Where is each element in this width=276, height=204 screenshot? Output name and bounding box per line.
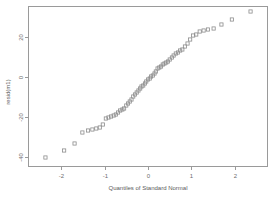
x-tick-label: 0 [147,173,151,179]
x-axis-ticks: -2-1012 [59,167,238,179]
y-axis-ticks: 200-20-40 [18,34,29,162]
x-tick-label: -2 [59,173,65,179]
data-point [230,18,233,21]
data-point [91,128,94,131]
x-tick-label: -1 [103,173,109,179]
data-point [95,127,98,130]
data-point [189,38,192,41]
x-axis-title: Quantiles of Standard Normal [108,185,187,191]
data-point [44,156,47,159]
y-axis-title: resid(m1) [5,79,11,104]
data-point [198,30,201,33]
y-tick-label: 20 [18,34,24,41]
y-tick-label: 0 [18,75,24,79]
scatter-plot-canvas: 200-20-40 -2-1012 Quantiles of Standard … [0,0,276,204]
y-tick-label: -40 [18,153,24,162]
qq-plot-figure: 200-20-40 -2-1012 Quantiles of Standard … [0,0,276,204]
x-tick-label: 1 [190,173,194,179]
data-point [249,10,252,13]
data-point [86,129,89,132]
data-point [73,142,76,145]
data-point [63,149,66,152]
axis-frame-box [29,7,268,167]
data-point-group [44,10,252,159]
data-point [220,23,223,26]
data-point [202,29,205,32]
plot-frame [29,7,268,167]
data-point [212,27,215,30]
data-point [81,131,84,134]
y-tick-label: -20 [18,113,24,122]
x-tick-label: 2 [234,173,238,179]
data-point [206,28,209,31]
